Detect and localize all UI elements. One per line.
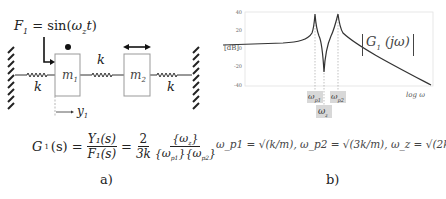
y-axis-label: [dB]: [224, 44, 239, 52]
output-dot-icon: [65, 44, 71, 50]
marker-omega-z: ωz: [318, 106, 328, 118]
curve-label: G1 (jω): [362, 34, 414, 56]
displacement-label: y1: [77, 104, 88, 120]
svg-text:0: 0: [239, 45, 242, 51]
force-label: F1 = sin(ωzt): [14, 18, 97, 36]
spring-mid-label: k: [97, 52, 105, 67]
x-axis-label: log ω: [406, 91, 425, 99]
spring-mid: [80, 73, 124, 77]
spring-right: [150, 73, 192, 77]
mass-1-label: m1: [62, 68, 78, 84]
spring-right-label: k: [167, 79, 175, 94]
svg-text:20: 20: [236, 27, 242, 33]
svg-text:-40: -40: [234, 82, 242, 88]
marker-omega-p1: ωp1: [308, 92, 321, 103]
spring-left-label: k: [34, 79, 42, 94]
frequency-formulas: ω_p1 = √(k/m), ω_p2 = √(3k/m), ω_z = √(2…: [216, 138, 446, 150]
marker-omega-p2: ωp2: [331, 92, 344, 103]
transfer-function: G1(s) = Y₁(s) F₁(s) = 2 3k {ωz} {ωp1}{ωp…: [32, 132, 216, 161]
force-arrow: [44, 37, 50, 62]
left-wall: [8, 47, 14, 109]
svg-text:-20: -20: [234, 63, 242, 69]
spring-left: [15, 73, 55, 77]
svg-text:40: 40: [236, 9, 242, 15]
double-arrow-icon: [123, 44, 151, 50]
right-wall: [193, 47, 199, 109]
caption-b: b): [326, 172, 339, 187]
mass-2-label: m2: [130, 68, 146, 84]
bode-magnitude-plot: 40 20 0 -20 -40: [223, 0, 446, 130]
caption-a: a): [100, 172, 113, 187]
